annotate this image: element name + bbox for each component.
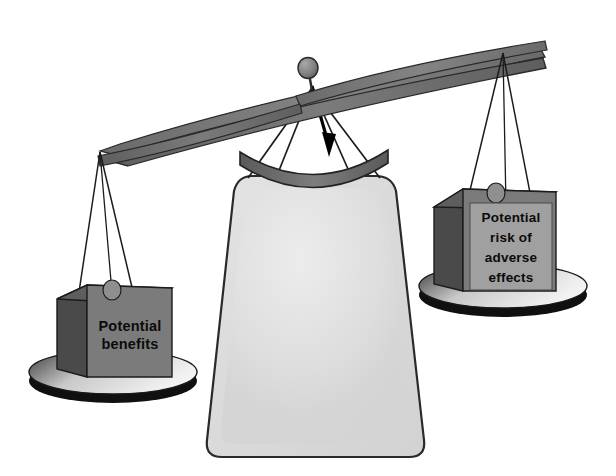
right-box-knob-icon — [487, 183, 505, 203]
left-box-knob-icon — [103, 280, 121, 300]
potential-benefits-box: Potential benefits — [57, 280, 172, 377]
left-box-label-line-1: Potential — [98, 318, 161, 334]
left-string-c — [100, 152, 112, 293]
central-sack — [207, 176, 424, 457]
potential-risk-box: Potential risk of adverse effects — [434, 183, 556, 291]
right-box-label-line-3: adverse — [485, 250, 538, 265]
left-box-label-line-2: benefits — [101, 336, 158, 352]
balance-scale-illustration: Potential benefits Potential risk of adv… — [0, 0, 616, 476]
pivot-knob — [298, 58, 318, 79]
right-box-label-line-4: effects — [489, 270, 534, 285]
right-box-label-line-1: Potential — [482, 210, 541, 225]
sack-highlight — [221, 188, 411, 444]
beam-blade-left-stub — [98, 104, 302, 166]
illustration-canvas: Potential benefits Potential risk of adv… — [0, 0, 616, 476]
right-box-label-line-2: risk of — [490, 230, 532, 245]
arrow-head-icon — [322, 132, 336, 157]
balance-pivot — [298, 58, 318, 91]
